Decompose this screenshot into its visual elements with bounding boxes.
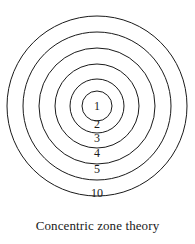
figure-caption: Concentric zone theory: [0, 218, 195, 234]
zone-label-5: 5: [94, 162, 100, 176]
zone-label-4: 4: [94, 146, 100, 160]
zone-label-1: 1: [94, 99, 100, 113]
zone-label-10: 10: [91, 186, 103, 200]
zone-label-3: 3: [94, 131, 100, 145]
zone-label-2: 2: [94, 117, 100, 131]
concentric-circles-diagram: 1 2 3 4 5 10: [0, 0, 195, 216]
concentric-zone-figure: 1 2 3 4 5 10 Concentric zone theory: [0, 0, 195, 244]
zone-labels-group: 1 2 3 4 5 10: [91, 99, 103, 200]
